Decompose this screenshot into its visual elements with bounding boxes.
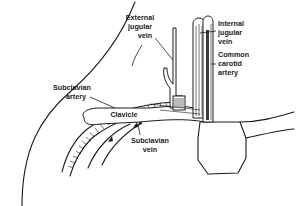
label-line: jugular — [217, 28, 242, 37]
label-line: vein — [143, 145, 157, 154]
label-line: Clavicle — [110, 110, 137, 119]
label-subclavian-artery: Subclavian artery — [53, 83, 91, 101]
label-external-jugular-vein: External jugular vein — [126, 13, 154, 40]
label-line: Subclavian — [131, 136, 169, 145]
label-line: carotid — [218, 59, 242, 68]
label-line: Subclavian — [53, 83, 91, 92]
label-line: vein — [138, 31, 152, 40]
leader-subclavian-vein — [138, 124, 140, 135]
shoulder-outline — [22, 2, 135, 206]
label-line: artery — [218, 68, 238, 77]
label-internal-jugular-vein: Internal jugular vein — [217, 19, 244, 46]
leader-external-jugular — [155, 38, 173, 60]
right-clavicle — [240, 112, 294, 122]
label-clavicle: Clavicle — [110, 110, 137, 119]
label-line: External — [126, 13, 154, 22]
label-line: Internal — [218, 19, 244, 28]
anatomy-diagram: External jugular vein Internal jugular v… — [0, 0, 306, 206]
clavicle-bone — [83, 106, 205, 125]
label-line: jugular — [127, 22, 152, 31]
label-line: vein — [218, 37, 232, 46]
manubrium — [198, 122, 246, 174]
label-subclavian-vein: Subclavian vein — [131, 136, 169, 154]
leader-subclavian-artery — [90, 97, 115, 108]
label-line: Common — [218, 50, 249, 59]
label-common-carotid-artery: Common carotid artery — [218, 50, 249, 77]
leader-external-jugular-curve — [132, 45, 142, 66]
diagram-canvas: External jugular vein Internal jugular v… — [0, 0, 306, 206]
label-line: artery — [66, 92, 86, 101]
